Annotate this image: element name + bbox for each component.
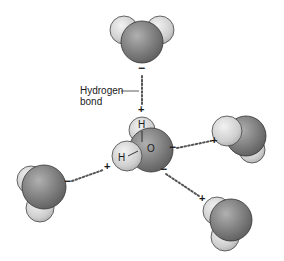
hydrogen-bonding-diagram: Hydrogen bond H O H − + + − − + − +: [0, 0, 284, 261]
water-molecule-left: [17, 165, 66, 222]
central-oxygen-letter: O: [147, 143, 155, 154]
charge-plus-right: +: [211, 135, 217, 146]
water-molecule-lower-right: [203, 197, 252, 251]
water-molecule-top: [110, 16, 174, 63]
charge-plus-central-left: +: [104, 161, 110, 172]
central-hydrogen-left-letter: H: [118, 152, 125, 163]
charge-minus-central-lower: −: [160, 164, 167, 175]
hydrogen-bond-right: [177, 141, 211, 148]
hydrogen-bond-label-line1: Hydrogen: [80, 85, 123, 96]
oxygen-atom: [22, 165, 66, 209]
charge-minus-left: −: [64, 176, 71, 187]
hydrogen-bond-left: [72, 170, 103, 181]
charge-plus-central-top: +: [138, 104, 144, 115]
oxygen-atom: [121, 21, 163, 63]
central-hydrogen-top-letter: H: [138, 119, 145, 130]
water-molecule-right: [212, 116, 266, 163]
hydrogen-bond-lower-right: [166, 174, 199, 196]
oxygen-atom: [210, 199, 252, 241]
charge-minus-central-right: −: [169, 142, 176, 153]
hydrogen-bond-label-line2: bond: [80, 96, 102, 107]
hydrogen-atom-left: [112, 141, 142, 171]
charge-minus-top: −: [138, 63, 145, 74]
charge-plus-lower-right: +: [199, 193, 205, 204]
